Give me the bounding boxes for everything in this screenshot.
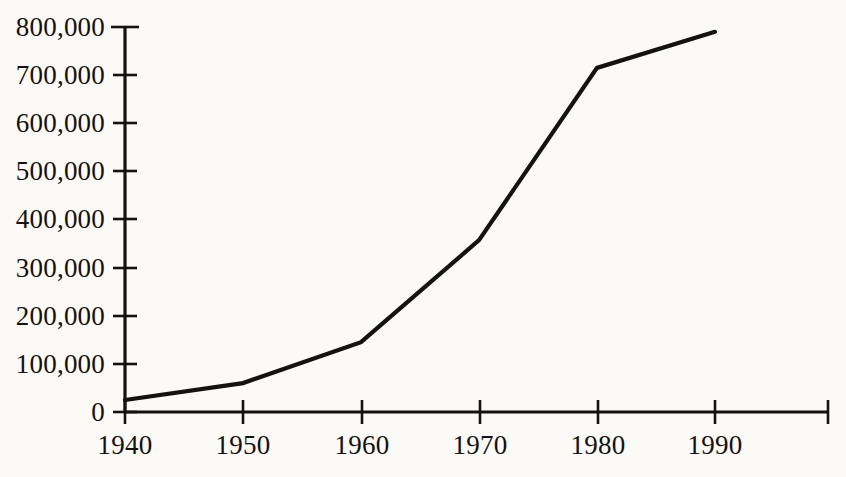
y-tick-label-0: 0 [0, 399, 105, 426]
y-tick-label-600000: 600,000 [0, 110, 105, 137]
y-tick-label-700000: 700,000 [0, 62, 105, 89]
y-tick-label-300000: 300,000 [0, 255, 105, 282]
x-tick-label-1940: 1940 [98, 432, 153, 459]
data-series-line [125, 32, 715, 400]
y-tick-label-400000: 400,000 [0, 206, 105, 233]
y-tick-label-500000: 500,000 [0, 158, 105, 185]
x-tick-label-1950: 1950 [216, 432, 271, 459]
y-tick-label-100000: 100,000 [0, 351, 105, 378]
x-tick-label-1980: 1980 [571, 432, 626, 459]
x-tick-label-1990: 1990 [688, 432, 743, 459]
y-tick-label-200000: 200,000 [0, 303, 105, 330]
line-chart: 800,000 700,000 600,000 500,000 400,000 … [0, 0, 846, 477]
y-tick-label-800000: 800,000 [0, 14, 105, 41]
x-tick-label-1960: 1960 [335, 432, 390, 459]
chart-plot-area [0, 0, 846, 477]
x-tick-label-1970: 1970 [453, 432, 508, 459]
